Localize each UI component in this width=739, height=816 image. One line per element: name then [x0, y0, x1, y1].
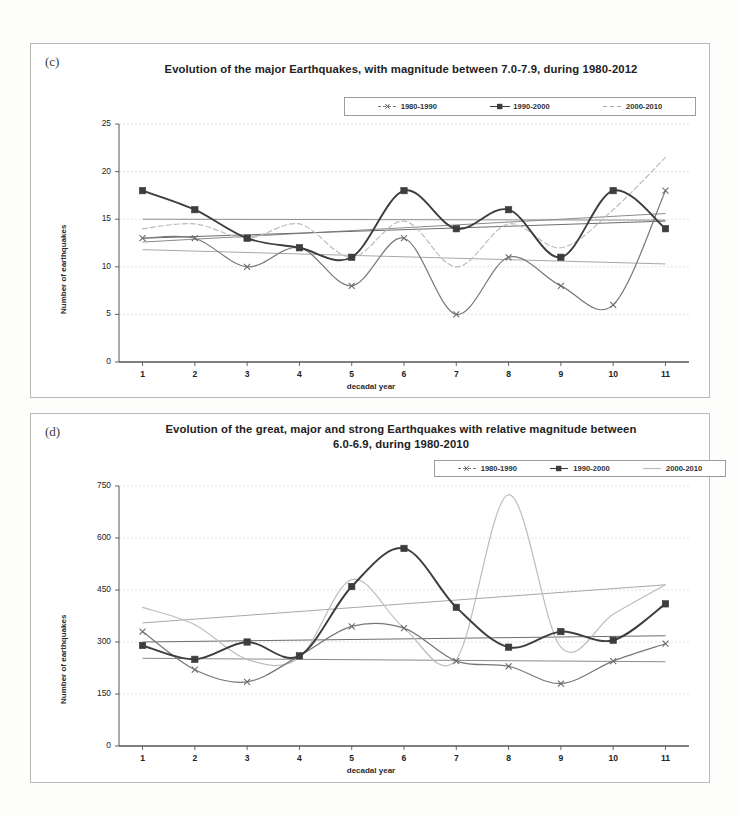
y-tick-label: 20 [77, 166, 111, 176]
x-tick-label: 9 [547, 369, 575, 379]
y-tick-label: 150 [77, 688, 111, 698]
chart-panel-d: (d) Evolution of the great, major and st… [30, 413, 710, 783]
x-tick-label: 6 [390, 753, 418, 763]
x-tick-label: 7 [442, 369, 470, 379]
x-tick-label: 2 [181, 753, 209, 763]
x-tick-label: 8 [495, 369, 523, 379]
x-tick-label: 11 [651, 753, 679, 763]
y-axis-title-d: Number of earthquakes [59, 615, 68, 704]
x-tick-label: 10 [599, 369, 627, 379]
chart-panel-c: (c) Evolution of the major Earthquakes, … [30, 43, 710, 398]
x-tick-label: 2 [181, 369, 209, 379]
x-tick-label: 11 [651, 369, 679, 379]
x-tick-label: 9 [547, 753, 575, 763]
y-tick-label: 0 [77, 356, 111, 366]
x-axis-title-c: decadal year [31, 382, 711, 391]
x-axis-title-d: decadal year [31, 766, 711, 775]
x-tick-label: 3 [233, 369, 261, 379]
y-axis-title-c: Number of earthquakes [59, 225, 68, 314]
y-tick-label: 750 [77, 480, 111, 490]
x-tick-label: 4 [285, 753, 313, 763]
x-tick-label: 1 [129, 369, 157, 379]
x-tick-label: 6 [390, 369, 418, 379]
x-tick-label: 10 [599, 753, 627, 763]
x-tick-label: 5 [338, 369, 366, 379]
x-tick-label: 1 [129, 753, 157, 763]
y-tick-label: 25 [77, 118, 111, 128]
x-tick-label: 7 [442, 753, 470, 763]
chart-svg-c [31, 44, 711, 399]
y-tick-label: 300 [77, 636, 111, 646]
y-tick-label: 600 [77, 532, 111, 542]
y-tick-label: 0 [77, 740, 111, 750]
x-tick-label: 8 [495, 753, 523, 763]
y-tick-label: 10 [77, 261, 111, 271]
x-tick-label: 3 [233, 753, 261, 763]
y-tick-label: 450 [77, 584, 111, 594]
y-tick-label: 15 [77, 213, 111, 223]
chart-svg-d [31, 414, 711, 784]
plot-area-c [31, 44, 711, 399]
y-tick-label: 5 [77, 308, 111, 318]
x-tick-label: 5 [338, 753, 366, 763]
x-tick-label: 4 [285, 369, 313, 379]
plot-area-d [31, 414, 711, 784]
scanned-page: (c) Evolution of the major Earthquakes, … [0, 0, 739, 816]
